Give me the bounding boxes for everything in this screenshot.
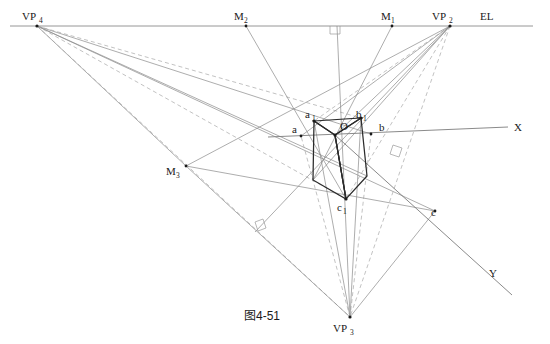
label-el-base: EL: [480, 10, 494, 22]
node-o: [333, 133, 336, 136]
ray-vp4-to-b: [37, 26, 371, 134]
label-y-base: Y: [489, 267, 497, 279]
label-c1: c 1: [337, 201, 347, 216]
label-vp2-base: VP: [432, 10, 446, 22]
label-a: a: [292, 123, 297, 135]
diagram-labels: VP 4 M 2 M 1 VP 2 EL X Y M 3 a: [22, 10, 522, 337]
node-m2: [245, 25, 248, 28]
ray-vp3-plumb: [337, 26, 350, 317]
label-a1-base: a: [305, 108, 310, 120]
ray-vp2-to-a1: [314, 26, 450, 121]
label-a1: a 1: [305, 108, 316, 123]
ray-vp3-to-b-dashed: [350, 134, 371, 317]
ray-vp3-to-c: [350, 211, 435, 317]
label-c: c: [431, 206, 436, 218]
label-o-base: O: [340, 120, 348, 132]
label-c1-base: c: [337, 201, 342, 213]
label-vp4: VP 4: [22, 10, 43, 25]
label-b-base: b: [379, 121, 385, 133]
label-o: O: [340, 120, 348, 132]
figure-caption: 图4-51: [244, 309, 280, 323]
label-y-axis: Y: [489, 267, 497, 279]
label-b: b: [379, 121, 385, 133]
right-angle-mark-box-right: [390, 145, 402, 157]
label-vp2-sub: 2: [449, 16, 453, 25]
label-a1-sub: 1: [312, 114, 316, 123]
perspective-construction-diagram: VP 4 M 2 M 1 VP 2 EL X Y M 3 a: [0, 0, 550, 344]
ray-vp4-to-c1: [37, 26, 346, 199]
ray-vp2-to-lower-left: [255, 26, 450, 232]
label-vp4-base: VP: [22, 10, 36, 22]
label-m3-base: M: [166, 165, 176, 177]
label-c1-sub: 1: [343, 207, 347, 216]
y-axis-line: [335, 135, 512, 295]
box-left-face: [313, 121, 346, 199]
label-vp4-sub: 4: [39, 16, 43, 25]
label-m2-sub: 2: [244, 16, 248, 25]
ray-m3-to-vp2: [186, 26, 450, 166]
label-m2-base: M: [234, 10, 244, 22]
label-vp3-base: VP: [333, 322, 347, 334]
label-vp3-sub: 3: [350, 328, 354, 337]
node-m3: [185, 165, 188, 168]
right-angle-mark-el-plumb: [330, 26, 340, 34]
ray-vp2-to-box-bl: [313, 26, 450, 180]
ray-m3-to-c: [186, 166, 435, 211]
label-a-base: a: [292, 123, 297, 135]
ray-vp4-to-c: [37, 26, 435, 211]
label-b1-base: b: [356, 108, 362, 120]
ray-vp2-to-a: [301, 26, 450, 136]
ray-vp4-to-box-br: [37, 26, 367, 176]
label-m3-sub: 3: [176, 171, 180, 180]
label-m1-base: M: [381, 10, 391, 22]
ray-vp2-to-c1-dashed: [346, 26, 450, 199]
node-m1: [391, 25, 394, 28]
ray-m1-to-box-bl: [313, 26, 392, 180]
node-b: [370, 133, 373, 136]
label-el: EL: [480, 10, 494, 22]
node-c1: [344, 197, 347, 200]
label-m3: M 3: [166, 165, 180, 180]
node-a: [300, 135, 303, 138]
right-angle-mark-lower-left: [255, 219, 266, 231]
node-vp3: [348, 315, 351, 318]
label-b1-sub: 1: [363, 114, 367, 123]
label-x-axis: X: [514, 121, 522, 133]
ray-vp3-to-b1: [350, 118, 361, 317]
ray-vp3-to-m3: [186, 166, 350, 317]
ray-vp2-to-vp3: [350, 26, 450, 317]
label-vp2: VP 2: [432, 10, 453, 25]
label-c-base: c: [431, 206, 436, 218]
ray-m2-to-c1: [246, 26, 346, 199]
label-vp3: VP 3: [333, 322, 354, 337]
rays-from-vp3: [186, 26, 435, 317]
label-m1: M 1: [381, 10, 395, 25]
node-dots: [35, 24, 451, 318]
label-x-base: X: [514, 121, 522, 133]
label-m2: M 2: [234, 10, 248, 25]
figure-root: VP 4 M 2 M 1 VP 2 EL X Y M 3 a: [0, 0, 550, 344]
label-m1-sub: 1: [391, 16, 395, 25]
